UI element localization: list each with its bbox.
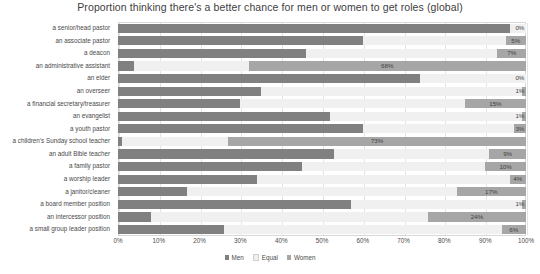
data-label: 9% <box>503 149 512 159</box>
table-row: 24% <box>118 211 526 224</box>
category-label: an evangelist <box>73 110 110 123</box>
bar-segment-equal <box>151 212 428 221</box>
chart-legend: MenEqualWomen <box>0 254 540 261</box>
legend-label: Women <box>294 254 316 261</box>
bar-segment-equal <box>224 225 501 234</box>
data-label: 24% <box>471 212 483 222</box>
stacked-bar <box>118 137 526 146</box>
category-label: a family pastor <box>69 160 110 173</box>
x-axis-tick: 50% <box>316 237 329 244</box>
bar-segment-equal <box>363 124 514 133</box>
bar-segment-equal <box>363 36 506 45</box>
bar-segment-equal <box>330 112 522 121</box>
category-label: an intercessor position <box>47 211 110 224</box>
gridline <box>527 23 528 235</box>
category-label: an associate pastor <box>55 35 110 48</box>
category-label: a senior/head pastor <box>53 22 110 35</box>
stacked-bar <box>118 99 526 108</box>
legend-label: Men <box>232 254 244 261</box>
bar-segment-equal <box>261 87 522 96</box>
stacked-bar <box>118 24 526 33</box>
table-row: 0% <box>118 22 526 35</box>
data-label: 10% <box>499 162 511 172</box>
category-label: a financial secretary/treasurer <box>27 98 110 111</box>
category-label: an overseer <box>77 85 110 98</box>
table-row: 17% <box>118 186 526 199</box>
stacked-bar <box>118 112 526 121</box>
table-row: 6% <box>118 223 526 236</box>
bar-segment-men <box>118 49 306 58</box>
stacked-bar <box>118 124 526 133</box>
table-row: 9% <box>118 148 526 161</box>
bar-segment-men <box>118 212 151 221</box>
category-label: an adult Bible teacher <box>49 148 110 161</box>
bar-segment-equal <box>122 137 228 146</box>
category-label: a children's Sunday school teacher <box>13 135 110 148</box>
bar-rows: 0%5%7%68%0%1%15%1%3%73%9%10%4%17%1%24%6% <box>118 22 526 236</box>
legend-swatch-icon <box>225 255 230 260</box>
table-row: 68% <box>118 60 526 73</box>
table-row: 1% <box>118 85 526 98</box>
legend-item[interactable]: Men <box>225 254 244 261</box>
stacked-bar <box>118 200 526 209</box>
chart-title: Proportion thinking there's a better cha… <box>0 1 540 13</box>
stacked-bar <box>118 87 526 96</box>
stacked-bar <box>118 175 526 184</box>
bar-segment-equal <box>134 61 248 70</box>
bar-segment-men <box>118 61 134 70</box>
stacked-bar <box>118 61 526 70</box>
legend-swatch-icon <box>253 254 260 261</box>
x-axis-tick: 80% <box>438 237 451 244</box>
bar-segment-men <box>118 162 302 171</box>
legend-item[interactable]: Women <box>287 254 316 261</box>
data-label: 15% <box>489 99 501 109</box>
bar-segment-men <box>118 99 240 108</box>
x-axis-tick: 30% <box>234 237 247 244</box>
data-label: 1% <box>515 86 524 96</box>
bar-segment-men <box>118 74 420 83</box>
bar-segment-equal <box>334 149 489 158</box>
legend-label: Equal <box>262 254 278 261</box>
legend-swatch-icon <box>287 255 292 260</box>
bar-segment-men <box>118 175 257 184</box>
bar-segment-men <box>118 112 330 121</box>
bar-segment-men <box>118 124 363 133</box>
table-row: 7% <box>118 47 526 60</box>
bar-segment-men <box>118 187 187 196</box>
category-label: a janitor/cleaner <box>65 186 110 199</box>
table-row: 1% <box>118 110 526 123</box>
x-axis-tick: 70% <box>397 237 410 244</box>
x-axis-tick: 90% <box>479 237 492 244</box>
stacked-bar <box>118 162 526 171</box>
bar-segment-men <box>118 36 363 45</box>
x-axis-tick: 20% <box>193 237 206 244</box>
category-label: a youth pastor <box>70 123 110 136</box>
table-row: 4% <box>118 173 526 186</box>
data-label: 4% <box>513 174 522 184</box>
x-axis-tick: 40% <box>275 237 288 244</box>
bar-segment-equal <box>351 200 522 209</box>
category-label: a deacon <box>84 47 110 60</box>
table-row: 1% <box>118 198 526 211</box>
bar-segment-equal <box>420 74 526 83</box>
category-label: an elder <box>87 72 110 85</box>
data-label: 1% <box>515 111 524 121</box>
chart-container: Proportion thinking there's a better cha… <box>0 0 540 274</box>
stacked-bar <box>118 225 526 234</box>
bar-segment-men <box>118 24 510 33</box>
data-label: 5% <box>511 36 520 46</box>
category-label: a board member position <box>40 198 110 211</box>
data-label: 68% <box>381 61 393 71</box>
bar-segment-equal <box>306 49 498 58</box>
data-label: 73% <box>371 136 383 146</box>
x-axis-tick: 60% <box>356 237 369 244</box>
category-axis-labels: a senior/head pastoran associate pastora… <box>0 22 114 236</box>
table-row: 5% <box>118 35 526 48</box>
data-label: 0% <box>515 23 524 33</box>
legend-item[interactable]: Equal <box>253 254 278 261</box>
data-label: 17% <box>485 187 497 197</box>
table-row: 73% <box>118 135 526 148</box>
bar-segment-equal <box>240 99 464 108</box>
x-axis: 0%10%20%30%40%50%60%70%80%90%100% <box>118 237 526 249</box>
table-row: 3% <box>118 123 526 136</box>
